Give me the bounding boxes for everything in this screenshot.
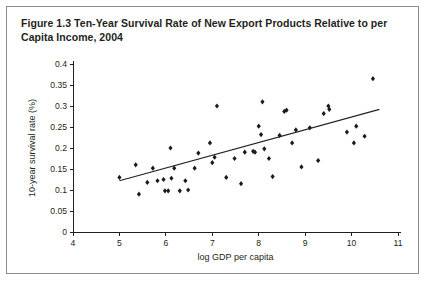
- data-point: [239, 181, 243, 186]
- data-point: [166, 188, 170, 193]
- x-tick-label: 7: [210, 238, 215, 248]
- data-point: [352, 140, 356, 145]
- x-tick-label: 4: [71, 238, 76, 248]
- data-point: [259, 132, 263, 137]
- data-point: [155, 178, 159, 183]
- data-point: [290, 140, 294, 145]
- data-point: [232, 156, 236, 161]
- data-point: [267, 156, 271, 161]
- x-axis-title: log GDP per capita: [198, 252, 274, 262]
- data-point: [345, 129, 349, 134]
- data-point: [137, 192, 141, 197]
- data-point: [322, 111, 326, 116]
- data-point: [117, 175, 121, 180]
- y-axis-ticks: 00.050.10.150.20.250.30.350.4: [50, 59, 73, 237]
- data-point: [196, 150, 200, 155]
- y-tick-label: 0.05: [50, 206, 67, 216]
- data-point: [224, 175, 228, 180]
- data-point: [178, 188, 182, 193]
- x-tick-label: 5: [117, 238, 122, 248]
- y-tick-label: 0.25: [50, 122, 67, 132]
- trend-line: [119, 109, 379, 180]
- y-tick-label: 0.15: [50, 164, 67, 174]
- x-tick-label: 8: [256, 238, 261, 248]
- data-point: [134, 162, 138, 167]
- scatter-plot: 00.050.10.150.20.250.30.350.4 4567891011…: [7, 7, 420, 275]
- x-tick-label: 11: [394, 238, 403, 248]
- data-point: [354, 124, 358, 129]
- data-point: [299, 164, 303, 169]
- data-point: [215, 103, 219, 108]
- data-point: [243, 150, 247, 155]
- data-point: [260, 99, 264, 104]
- figure-frame: Figure 1.3 Ten-Year Survival Rate of New…: [6, 6, 419, 274]
- data-point: [169, 176, 173, 181]
- axis-lines: [73, 61, 401, 232]
- data-point: [151, 166, 155, 171]
- y-tick-label: 0.4: [55, 59, 67, 69]
- x-tick-label: 6: [163, 238, 168, 248]
- data-point: [186, 187, 190, 192]
- data-point: [271, 174, 275, 179]
- x-axis-ticks: 4567891011: [71, 232, 403, 248]
- y-tick-label: 0.35: [50, 80, 67, 90]
- data-point: [145, 180, 149, 185]
- data-point: [316, 158, 320, 163]
- x-tick-label: 9: [303, 238, 308, 248]
- x-tick-label: 10: [347, 238, 357, 248]
- y-tick-label: 0.2: [55, 143, 67, 153]
- plot-svg: 00.050.10.150.20.250.30.350.4 4567891011…: [7, 7, 420, 275]
- y-tick-label: 0: [62, 227, 67, 237]
- data-point: [371, 76, 375, 81]
- data-point: [193, 166, 197, 171]
- data-point: [362, 134, 366, 139]
- y-tick-label: 0.3: [55, 101, 67, 111]
- data-point: [208, 140, 212, 145]
- data-point: [183, 178, 187, 183]
- data-point: [210, 160, 214, 165]
- data-point: [257, 124, 261, 129]
- data-points: [117, 76, 375, 197]
- data-point: [262, 146, 266, 151]
- data-point: [161, 177, 165, 182]
- y-tick-label: 0.1: [55, 185, 67, 195]
- y-axis-title: 10-year survival rate (%): [27, 99, 37, 197]
- data-point: [168, 145, 172, 150]
